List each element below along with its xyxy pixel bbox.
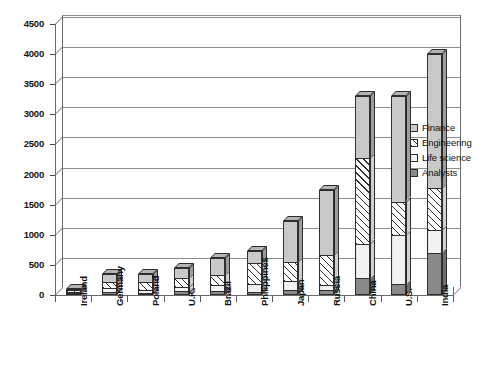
gridline	[62, 47, 460, 48]
x-axis-category-label: China	[367, 281, 378, 306]
legend-swatch-analysts-icon	[410, 169, 418, 177]
x-axis-category-label: Poland	[150, 276, 161, 306]
bar-segment-side-finance	[334, 185, 339, 255]
plot-top-edge	[62, 15, 460, 16]
bar-segment-finance	[174, 268, 189, 278]
legend-item-engineering[interactable]: Engineering	[410, 135, 472, 150]
legend-item-finance[interactable]: Finance	[410, 120, 472, 135]
y-axis-tick-label: 0	[8, 289, 44, 300]
x-axis-category-label: Brazil	[222, 281, 233, 306]
x-axis-tick	[127, 295, 128, 302]
x-axis-category-label: U.K.	[186, 288, 197, 306]
x-axis-tick	[344, 295, 345, 302]
x-axis-tick	[55, 295, 56, 302]
bar-segment-finance	[355, 96, 370, 158]
x-axis-category-label: Russia	[331, 276, 342, 306]
legend: FinanceEngineeringLife scienceAnalysts	[410, 120, 472, 180]
bar-segment-engineering	[355, 158, 370, 244]
x-axis-tick	[381, 295, 382, 302]
y-axis-line	[55, 24, 56, 295]
y-axis-tick-label: 1000	[8, 229, 44, 240]
legend-label: Analysts	[422, 167, 457, 178]
bar-segment-side-finance	[370, 91, 375, 158]
x-axis-tick	[164, 295, 165, 302]
y-axis-tick-label: 3000	[8, 108, 44, 119]
bar-u-s	[391, 96, 406, 295]
bar-segment-side-life-science	[370, 239, 375, 279]
bar-chart: 050010001500200025003000350040004500 Ire…	[0, 0, 485, 369]
plot-back-wall-left	[62, 15, 63, 287]
x-axis-category-label: India	[439, 285, 450, 306]
bar-segment-side-engineering	[370, 153, 375, 244]
gridline	[62, 77, 460, 78]
bar-segment-life-science	[355, 244, 370, 279]
x-axis-category-label: Japan	[295, 280, 306, 306]
bar-segment-engineering	[283, 262, 298, 282]
bar-segment-engineering	[427, 188, 442, 230]
y-axis-tick-label: 1500	[8, 199, 44, 210]
bar-segment-engineering	[174, 278, 189, 287]
x-axis-category-label: Ireland	[78, 276, 89, 306]
y-axis-tick-label: 2000	[8, 169, 44, 180]
bar-segment-engineering	[391, 202, 406, 235]
bar-segment-side-engineering	[442, 183, 447, 230]
legend-swatch-life-science-icon	[410, 154, 418, 162]
x-axis-tick	[417, 295, 418, 302]
y-axis-tick-label: 4000	[8, 48, 44, 59]
bar-segment-side-finance	[298, 216, 303, 262]
legend-item-analysts[interactable]: Analysts	[410, 165, 472, 180]
bar-segment-finance	[283, 221, 298, 262]
bar-segment-finance	[210, 258, 225, 275]
y-axis-tick-label: 500	[8, 259, 44, 270]
legend-item-life-science[interactable]: Life science	[410, 150, 472, 165]
x-axis-tick	[91, 295, 92, 302]
gridline	[62, 17, 460, 18]
bar-segment-side-life-science	[406, 230, 411, 285]
legend-swatch-finance-icon	[410, 124, 418, 132]
x-axis-category-label: Germany	[114, 266, 125, 306]
bar-segment-life-science	[391, 235, 406, 285]
x-axis-tick	[200, 295, 201, 302]
legend-label: Finance	[422, 122, 455, 133]
bar-segment-finance	[391, 96, 406, 201]
x-axis-category-label: Philippines	[259, 258, 270, 306]
legend-label: Life science	[422, 152, 471, 163]
x-axis-tick	[272, 295, 273, 302]
bar-segment-life-science	[427, 230, 442, 253]
legend-label: Engineering	[422, 137, 472, 148]
bar-segment-side-engineering	[406, 197, 411, 235]
x-axis-tick	[308, 295, 309, 302]
y-axis-tick-label: 4500	[8, 18, 44, 29]
y-axis-tick-label: 3500	[8, 78, 44, 89]
x-axis-category-label: U.S.	[403, 288, 414, 306]
y-axis-tick-label: 2500	[8, 138, 44, 149]
legend-swatch-engineering-icon	[410, 139, 418, 147]
x-axis-tick	[236, 295, 237, 302]
bar-china	[355, 96, 370, 295]
x-axis-tick	[453, 295, 454, 302]
bar-segment-finance	[319, 190, 334, 255]
